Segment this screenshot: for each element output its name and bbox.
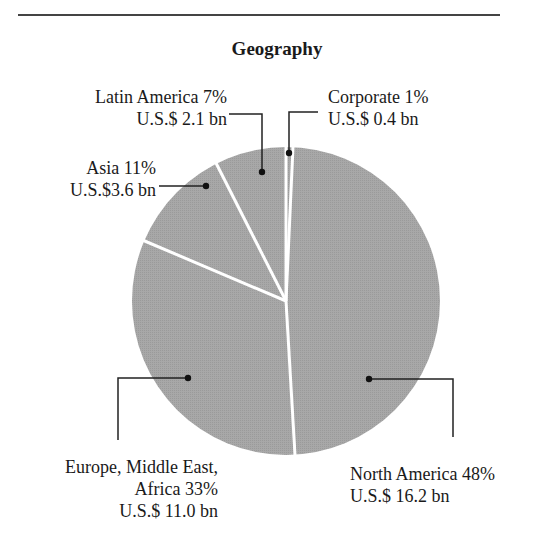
dot-north-america	[366, 376, 372, 382]
label-emea: Europe, Middle East, Africa 33% U.S.$ 11…	[65, 456, 218, 522]
leader-corporate	[289, 112, 318, 153]
dot-corporate	[286, 150, 292, 156]
label-asia: Asia 11% U.S.$3.6 bn	[70, 157, 156, 201]
label-latin-america: Latin America 7% U.S.$ 2.1 bn	[95, 86, 227, 130]
dot-emea	[185, 375, 191, 381]
dot-latin-america	[259, 169, 265, 175]
label-corporate: Corporate 1% U.S.$ 0.4 bn	[328, 86, 428, 130]
dot-asia	[203, 183, 209, 189]
label-north-america: North America 48% U.S.$ 16.2 bn	[350, 463, 495, 507]
